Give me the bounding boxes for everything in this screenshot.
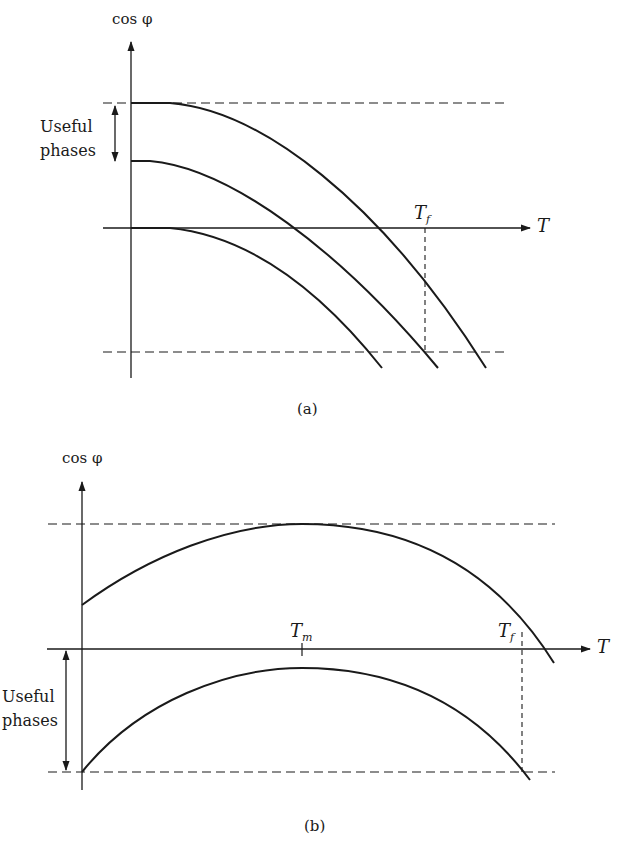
tf-label-a: Tf (414, 202, 430, 223)
caption-b: (b) (304, 817, 325, 835)
upper-curve-b (82, 524, 554, 663)
upper-curve-a (131, 103, 486, 368)
y-axis-label-b: cos φ (62, 449, 102, 467)
tm-label: Tm (290, 620, 312, 641)
lower-curve-a (131, 228, 382, 368)
y-axis-label-a: cos φ (112, 10, 152, 28)
middle-curve-a (131, 161, 438, 368)
tf-label-b: Tf (498, 620, 514, 641)
caption-a: (a) (297, 400, 318, 418)
x-axis-label-a: T (537, 215, 549, 236)
x-axis-label-b: T (597, 636, 609, 657)
useful-phases-label-b: Useful phases (2, 685, 58, 733)
lower-curve-b (82, 668, 530, 780)
figure-a (103, 42, 530, 378)
useful-phases-label-a: Useful phases (40, 115, 96, 163)
